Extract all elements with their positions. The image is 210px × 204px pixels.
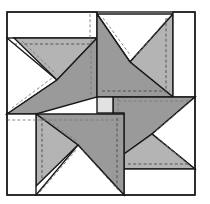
quilt-block-svg — [0, 0, 210, 204]
white-strip-bottom-right — [124, 169, 195, 195]
white-strip-bottom-left — [7, 114, 36, 195]
center-square — [97, 97, 113, 113]
blade-top-left — [7, 12, 97, 114]
white-strip-top-right — [173, 12, 195, 97]
blade-bottom-left — [7, 114, 124, 195]
blade-bottom-right — [113, 97, 195, 195]
blade-top-right — [90, 12, 195, 97]
white-strip-top-left — [7, 12, 97, 38]
quilt-block-diagram — [0, 0, 210, 204]
